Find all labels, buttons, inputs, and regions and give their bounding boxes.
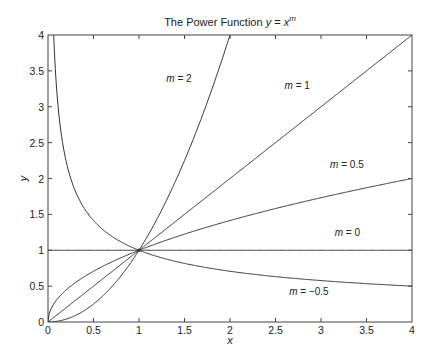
chart-title: The Power Function y = xm [164,14,296,28]
x-tick-label: 1 [136,324,142,336]
curve-label: m = 1 [285,80,311,91]
y-tick-label: 4 [38,29,44,41]
x-tick-label: 1.5 [177,324,192,336]
curve-label: m = −0.5 [289,286,329,297]
x-tick-label: 0.5 [86,324,101,336]
y-tick-label: 1 [38,244,44,256]
y-tick-label: 0 [38,316,44,328]
intersection-point [137,248,141,252]
x-tick-label: 3.5 [359,324,374,336]
y-tick-label: 2 [38,173,44,185]
curve-label: m = 2 [166,73,192,84]
curve-labels-group: m = 2m = 1m = 0.5m = 0m = −0.5 [166,73,364,298]
x-tick-label: 0 [45,324,51,336]
ticks-group: 00.511.522.533.5400.511.522.533.54 [29,29,415,336]
curve-label: m = 0.5 [330,159,364,170]
y-tick-label: 2.5 [29,137,44,149]
y-tick-label: 1.5 [29,208,44,220]
y-tick-label: 0.5 [29,280,44,292]
x-tick-label: 2.5 [268,324,283,336]
y-tick-label: 3.5 [29,65,44,77]
y-axis-label: y [17,174,29,182]
x-axis-label: x [226,334,233,346]
curve-m-1 [48,35,412,322]
power-function-chart: 00.511.522.533.5400.511.522.533.54 m = 2… [0,0,433,360]
curve-label: m = 0 [335,227,361,238]
chart-figure: 00.511.522.533.5400.511.522.533.54 m = 2… [0,0,433,360]
x-tick-label: 3 [318,324,324,336]
x-tick-label: 4 [409,324,415,336]
y-tick-label: 3 [38,101,44,113]
